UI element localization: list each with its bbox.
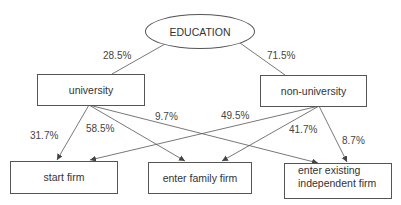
university-existing-label: 9.7% — [155, 111, 178, 122]
university-label: university — [69, 84, 113, 97]
university-node: university — [37, 74, 145, 106]
non-university-share-label: 71.5% — [267, 50, 295, 61]
university-start-label: 31.7% — [30, 130, 58, 141]
edge-university-existing-firm — [89, 105, 318, 163]
start-firm-label: start firm — [44, 171, 85, 184]
education-label: EDUCATION — [169, 26, 230, 38]
edge-non-university-existing-firm — [319, 106, 347, 162]
edge-university-start-firm — [57, 105, 89, 160]
family-firm-label: enter family firm — [163, 172, 238, 185]
university-share-label: 28.5% — [103, 50, 131, 61]
family-firm-node: enter family firm — [148, 162, 252, 194]
existing-firm-label-line2: independent firm — [298, 177, 376, 190]
non-university-existing-label: 8.7% — [342, 135, 365, 146]
non-university-start-label: 49.5% — [221, 110, 249, 121]
non-university-node: non-university — [260, 75, 367, 107]
university-family-label: 58.5% — [86, 123, 114, 134]
non-university-family-label: 41.7% — [289, 124, 317, 135]
start-firm-node: start firm — [10, 161, 118, 194]
existing-firm-label-line1: enter existing — [298, 164, 360, 177]
existing-firm-node: enter existing independent firm — [284, 163, 392, 199]
non-university-label: non-university — [281, 85, 346, 98]
education-node: EDUCATION — [145, 14, 255, 49]
